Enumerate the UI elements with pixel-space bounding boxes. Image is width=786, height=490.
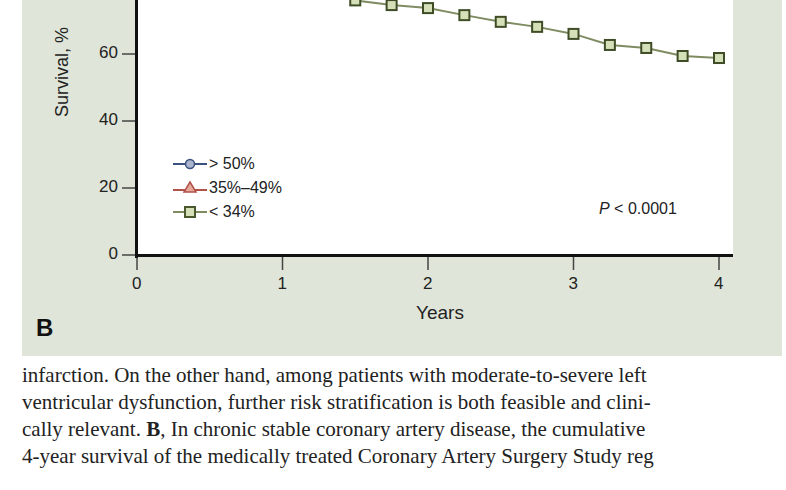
data-point-marker — [459, 10, 469, 20]
circle-marker-icon — [173, 156, 207, 172]
caption-line: 4-year survival of the medically treated… — [22, 443, 786, 470]
y-axis-line — [135, 0, 138, 258]
x-tick-label: 3 — [569, 274, 578, 294]
y-tick-label: 40 — [99, 110, 118, 130]
legend-label: < 34% — [209, 203, 255, 221]
caption-line: infarction. On the other hand, among pat… — [22, 362, 786, 389]
x-axis-label: Years — [416, 302, 464, 324]
data-point-marker — [678, 51, 688, 61]
legend-item-35-49: 35%–49% — [173, 176, 282, 200]
figure-caption: infarction. On the other hand, among pat… — [22, 362, 786, 470]
data-point-marker — [569, 29, 579, 39]
square-marker-icon — [173, 204, 207, 220]
legend-label: > 50% — [209, 155, 255, 173]
y-tick-label: 60 — [99, 43, 118, 63]
x-tick-label: 1 — [278, 274, 287, 294]
data-point-marker — [496, 17, 506, 27]
x-tick-label: 4 — [714, 274, 723, 294]
panel-letter: B — [36, 314, 53, 342]
p-value-annotation: P < 0.0001 — [599, 200, 677, 218]
caption-line: ventricular dysfunction, further risk st… — [22, 389, 786, 416]
data-point-marker — [350, 0, 360, 5]
triangle-marker-icon — [173, 180, 207, 196]
data-point-marker — [423, 3, 433, 13]
y-tick-label: 20 — [99, 177, 118, 197]
x-axis-line — [135, 254, 733, 257]
x-tick-label: 2 — [423, 274, 432, 294]
y-axis-label: Survival, % — [52, 27, 73, 117]
caption-line: cally relevant. B, In chronic stable cor… — [22, 416, 786, 443]
x-tick-label: 0 — [132, 274, 141, 294]
data-point-marker — [641, 43, 651, 53]
legend-item-lt34: < 34% — [173, 200, 282, 224]
legend-label: 35%–49% — [209, 179, 282, 197]
data-point-marker — [387, 0, 397, 10]
y-tick-label: 0 — [109, 244, 118, 264]
data-point-marker — [532, 22, 542, 32]
legend-item-gt50: > 50% — [173, 152, 282, 176]
data-point-marker — [714, 53, 724, 63]
legend: > 50% 35%–49% < 34% — [173, 152, 282, 224]
data-point-marker — [605, 40, 615, 50]
